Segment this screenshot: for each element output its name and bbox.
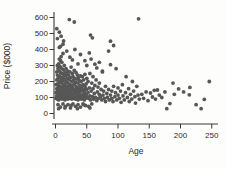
data-point xyxy=(136,93,140,97)
data-point xyxy=(188,86,192,90)
data-point xyxy=(199,107,203,111)
x-tick-label: 250 xyxy=(205,131,219,140)
data-point xyxy=(79,53,83,57)
y-tick-label: 400 xyxy=(35,45,49,54)
data-point xyxy=(90,81,94,85)
y-tick-label: 300 xyxy=(35,61,49,70)
x-tick-label: 150 xyxy=(143,131,157,140)
data-point xyxy=(202,98,206,102)
data-point xyxy=(57,30,61,34)
data-point xyxy=(87,51,91,55)
data-point xyxy=(112,44,116,48)
data-point xyxy=(69,65,73,69)
data-point xyxy=(71,72,75,76)
data-point xyxy=(63,106,67,110)
data-point xyxy=(62,39,66,43)
data-point xyxy=(182,90,186,94)
data-point xyxy=(61,42,65,46)
data-point xyxy=(104,84,108,88)
data-point xyxy=(90,102,94,106)
data-point xyxy=(114,67,118,71)
data-point xyxy=(109,63,113,67)
data-point xyxy=(129,92,133,96)
data-point xyxy=(76,107,80,111)
data-point xyxy=(95,66,99,70)
data-point xyxy=(134,101,138,105)
data-point xyxy=(171,81,175,85)
data-point xyxy=(82,103,86,107)
data-point xyxy=(163,90,167,94)
data-point xyxy=(121,83,125,87)
scatter-plot-canvas: 0100200300400500600 050100150200250 Pric… xyxy=(0,0,227,169)
y-axis: 0100200300400500600 xyxy=(35,12,54,119)
data-point xyxy=(149,91,153,95)
data-point xyxy=(142,96,146,100)
data-point xyxy=(119,89,123,93)
y-tick-label: 0 xyxy=(44,109,49,118)
data-point xyxy=(88,72,92,76)
data-point xyxy=(104,100,108,104)
data-point xyxy=(59,55,63,59)
x-axis: 050100150200250 xyxy=(52,124,219,140)
data-point xyxy=(156,88,160,92)
data-point xyxy=(61,52,65,56)
data-point xyxy=(59,34,63,38)
data-point xyxy=(132,89,136,93)
data-point xyxy=(111,100,115,104)
data-point xyxy=(72,20,76,24)
data-point xyxy=(127,87,131,91)
data-point xyxy=(57,107,61,111)
data-point xyxy=(124,75,128,79)
data-point xyxy=(140,92,144,96)
data-point xyxy=(105,92,109,96)
data-point xyxy=(126,96,130,100)
data-point xyxy=(168,102,172,106)
data-point xyxy=(151,95,155,99)
data-point xyxy=(144,90,148,94)
data-point xyxy=(124,91,128,95)
data-point xyxy=(107,49,111,53)
data-point xyxy=(112,84,116,88)
y-tick-label: 100 xyxy=(35,93,49,102)
data-point xyxy=(137,17,141,21)
data-point xyxy=(89,57,93,61)
data-point xyxy=(160,96,164,100)
data-point xyxy=(91,87,95,91)
data-point xyxy=(88,106,92,110)
data-point xyxy=(121,94,125,98)
data-point xyxy=(122,98,126,102)
data-point xyxy=(76,62,80,66)
y-axis-title: Price ($000) xyxy=(2,43,12,89)
x-tick-label: 100 xyxy=(111,131,125,140)
data-point xyxy=(177,87,181,91)
data-point xyxy=(97,81,101,85)
data-point xyxy=(67,18,71,22)
data-point xyxy=(55,27,59,31)
data-point xyxy=(131,80,135,84)
data-point xyxy=(187,93,191,97)
data-point xyxy=(109,39,113,43)
data-point xyxy=(135,84,139,88)
data-point xyxy=(86,80,90,84)
data-point xyxy=(137,97,141,101)
data-point xyxy=(62,64,66,68)
data-point xyxy=(165,107,169,111)
data-point xyxy=(207,80,211,84)
data-point xyxy=(87,86,91,90)
data-point xyxy=(116,86,120,90)
data-point xyxy=(96,85,100,89)
data-point xyxy=(110,89,114,93)
data-point xyxy=(117,96,121,100)
data-point xyxy=(130,97,134,101)
data-point xyxy=(56,37,60,41)
data-point xyxy=(85,64,89,68)
data-point xyxy=(172,92,176,96)
data-point xyxy=(69,104,73,108)
x-tick-label: 50 xyxy=(82,131,91,140)
data-point xyxy=(71,58,75,62)
data-point xyxy=(119,100,123,104)
price-vs-age-scatter-chart: 0100200300400500600 050100150200250 Pric… xyxy=(0,0,227,169)
y-tick-label: 200 xyxy=(35,77,49,86)
data-point xyxy=(101,69,105,73)
scatter-points xyxy=(54,17,211,111)
